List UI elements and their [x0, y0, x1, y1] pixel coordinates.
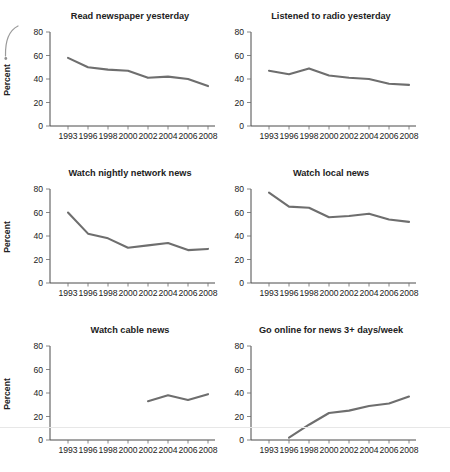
- x-tick-label: 2000: [118, 288, 137, 298]
- x-tick-label: 2002: [138, 445, 157, 455]
- x-tick-label: 2000: [319, 445, 338, 455]
- y-tick-label: 20: [234, 98, 244, 108]
- x-tick-label: 1998: [299, 288, 318, 298]
- x-tick-label: 2008: [198, 288, 217, 298]
- y-tick-label: 60: [234, 51, 244, 61]
- chart-read-newspaper-yesterday: Read newspaper yesterday Percent 0204060…: [0, 0, 225, 157]
- x-tick-label: 2002: [339, 288, 358, 298]
- x-tick-label: 2000: [319, 288, 338, 298]
- x-tick-label: 2000: [118, 445, 137, 455]
- line-chart-svg: Watch cable news Percent 020406080199319…: [0, 314, 225, 471]
- y-tick-label: 20: [234, 255, 244, 265]
- y-tick-label: 40: [234, 231, 244, 241]
- chart-title: Watch cable news: [91, 325, 170, 335]
- x-tick-label: 1993: [259, 131, 278, 141]
- chart-watch-nightly-network-news: Watch nightly network news Percent 02040…: [0, 157, 225, 314]
- x-tick-label: 2000: [319, 131, 338, 141]
- x-tick-label: 1993: [58, 445, 77, 455]
- y-tick-label: 60: [234, 208, 244, 218]
- x-tick-label: 1998: [299, 131, 318, 141]
- x-tick-label: 2004: [359, 445, 378, 455]
- chart-watch-local-news: Watch local news 02040608019931996199820…: [225, 157, 450, 314]
- x-tick-label: 2008: [399, 445, 418, 455]
- data-line: [269, 68, 409, 84]
- x-tick-label: 1998: [98, 131, 117, 141]
- data-line: [148, 394, 208, 401]
- x-tick-label: 2000: [118, 131, 137, 141]
- x-tick-label: 1993: [58, 288, 77, 298]
- y-axis-label: Percent: [2, 64, 12, 96]
- y-tick-label: 40: [33, 388, 43, 398]
- y-tick-label: 40: [234, 388, 244, 398]
- chart-listened-to-radio-yesterday: Listened to radio yesterday 020406080199…: [225, 0, 450, 157]
- x-tick-label: 1996: [279, 445, 298, 455]
- plot-area: 0204060801993199619982000200220042006200…: [33, 184, 217, 298]
- chart-title: Watch nightly network news: [68, 168, 191, 178]
- data-line: [68, 58, 208, 86]
- plot-area: 0204060801993199619982000200220042006200…: [33, 27, 217, 141]
- x-tick-label: 1998: [98, 288, 117, 298]
- y-axis-label: Percent: [2, 378, 12, 410]
- line-chart-svg: Listened to radio yesterday 020406080199…: [225, 0, 450, 157]
- chart-watch-cable-news: Watch cable news Percent 020406080199319…: [0, 314, 225, 471]
- x-tick-label: 2006: [178, 131, 197, 141]
- x-tick-label: 2006: [379, 288, 398, 298]
- x-tick-label: 1993: [259, 288, 278, 298]
- plot-area: 0204060801993199619982000200220042006200…: [33, 341, 217, 455]
- x-tick-label: 1993: [259, 445, 278, 455]
- y-tick-label: 40: [33, 231, 43, 241]
- y-tick-label: 0: [239, 121, 244, 131]
- chart-title: Watch local news: [293, 168, 369, 178]
- charts-grid: Read newspaper yesterday Percent 0204060…: [0, 0, 450, 471]
- y-tick-label: 80: [33, 341, 43, 351]
- x-tick-label: 2004: [158, 131, 177, 141]
- x-tick-label: 2008: [399, 131, 418, 141]
- x-tick-label: 1996: [78, 288, 97, 298]
- plot-area: 0204060801993199619982000200220042006200…: [234, 341, 418, 455]
- y-tick-label: 0: [239, 278, 244, 288]
- x-tick-label: 1996: [78, 131, 97, 141]
- chart-title: Read newspaper yesterday: [71, 11, 190, 21]
- data-line: [68, 213, 208, 251]
- plot-area: 0204060801993199619982000200220042006200…: [234, 27, 418, 141]
- x-tick-label: 1998: [299, 445, 318, 455]
- x-tick-label: 2006: [178, 288, 197, 298]
- x-tick-label: 2008: [399, 288, 418, 298]
- x-tick-label: 2006: [178, 445, 197, 455]
- y-tick-label: 60: [33, 208, 43, 218]
- y-tick-label: 60: [234, 365, 244, 375]
- scan-artifact-line: [0, 427, 450, 428]
- y-tick-label: 20: [33, 412, 43, 422]
- x-tick-label: 2008: [198, 445, 217, 455]
- x-tick-label: 2004: [359, 288, 378, 298]
- data-line: [289, 397, 409, 438]
- y-tick-label: 60: [33, 365, 43, 375]
- chart-title: Go online for news 3+ days/week: [259, 325, 404, 335]
- line-chart-svg: Go online for news 3+ days/week 02040608…: [225, 314, 450, 471]
- y-tick-label: 20: [33, 98, 43, 108]
- y-tick-label: 80: [33, 184, 43, 194]
- y-tick-label: 0: [38, 278, 43, 288]
- x-tick-label: 1996: [78, 445, 97, 455]
- x-tick-label: 2002: [339, 131, 358, 141]
- x-tick-label: 2002: [339, 445, 358, 455]
- plot-area: 0204060801993199619982000200220042006200…: [234, 184, 418, 298]
- y-tick-label: 80: [33, 27, 43, 37]
- y-tick-label: 20: [33, 255, 43, 265]
- x-tick-label: 2002: [138, 131, 157, 141]
- line-chart-svg: Watch local news 02040608019931996199820…: [225, 157, 450, 314]
- data-line: [269, 193, 409, 222]
- x-tick-label: 2006: [379, 445, 398, 455]
- y-tick-label: 80: [234, 341, 244, 351]
- line-chart-svg: Watch nightly network news Percent 02040…: [0, 157, 225, 314]
- chart-title: Listened to radio yesterday: [271, 11, 391, 21]
- y-tick-label: 20: [234, 412, 244, 422]
- x-tick-label: 2002: [138, 288, 157, 298]
- y-tick-label: 80: [234, 184, 244, 194]
- y-tick-label: 40: [33, 74, 43, 84]
- x-tick-label: 2004: [158, 288, 177, 298]
- x-tick-label: 2004: [158, 445, 177, 455]
- x-tick-label: 1998: [98, 445, 117, 455]
- y-tick-label: 80: [234, 27, 244, 37]
- x-tick-label: 1993: [58, 131, 77, 141]
